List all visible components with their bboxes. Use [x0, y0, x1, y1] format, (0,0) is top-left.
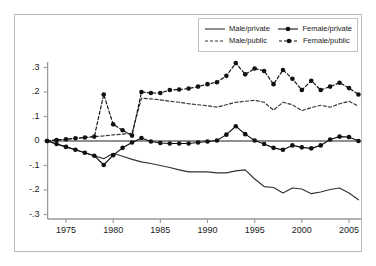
- series-marker-female-private: [120, 146, 125, 151]
- series-marker-female-private: [177, 141, 182, 146]
- legend-key-female-public: [278, 36, 300, 46]
- series-line-female-public: [47, 63, 358, 141]
- series-marker-female-public: [130, 133, 135, 138]
- series-marker-female-public: [337, 80, 342, 85]
- series-marker-female-private: [262, 142, 267, 147]
- series-marker-female-public: [328, 84, 333, 89]
- series-marker-female-private: [318, 143, 323, 148]
- series-marker-female-public: [205, 82, 210, 87]
- series-marker-female-private: [271, 146, 276, 151]
- chart-figure: Male/private Female/private Male/public: [0, 0, 376, 266]
- series-marker-female-private: [196, 140, 201, 145]
- y-axis-tick-label: .3: [14, 62, 40, 72]
- series-marker-female-public: [224, 74, 229, 79]
- series-marker-female-private: [290, 143, 295, 148]
- series-marker-female-public: [309, 78, 314, 83]
- series-marker-female-private: [356, 139, 361, 144]
- series-marker-female-public: [101, 92, 106, 97]
- series-marker-female-private: [111, 153, 116, 158]
- series-marker-female-public: [234, 61, 239, 66]
- series-marker-female-public: [196, 84, 201, 89]
- series-marker-female-private: [347, 135, 352, 140]
- series-marker-female-private: [64, 145, 69, 150]
- y-axis-tick-label: 0: [14, 135, 40, 145]
- series-marker-female-public: [139, 90, 144, 95]
- legend-key-male-private: [204, 24, 226, 34]
- series-marker-female-private: [54, 142, 59, 147]
- chart-legend: Male/private Female/private Male/public: [198, 18, 358, 52]
- legend-item-male-private: Male/private: [204, 24, 277, 34]
- y-axis-tick-label: -.3: [14, 209, 40, 219]
- series-marker-female-private: [130, 140, 135, 145]
- series-marker-female-public: [281, 68, 286, 73]
- series-marker-female-public: [215, 80, 220, 85]
- series-marker-female-public: [252, 66, 257, 71]
- series-marker-female-private: [92, 153, 97, 158]
- series-marker-female-private: [158, 141, 163, 146]
- legend-item-female-public: Female/public: [278, 36, 352, 46]
- series-marker-female-public: [290, 76, 295, 81]
- series-marker-female-private: [186, 141, 191, 146]
- series-marker-female-private: [215, 138, 220, 143]
- y-axis-tick-label: .2: [14, 86, 40, 96]
- series-marker-female-public: [177, 87, 182, 92]
- series-marker-female-private: [149, 139, 154, 144]
- series-marker-female-private: [224, 132, 229, 137]
- x-axis-tick-label: 1990: [191, 225, 225, 235]
- series-marker-female-private: [73, 148, 78, 153]
- series-marker-female-public: [167, 88, 172, 93]
- series-marker-female-private: [234, 124, 239, 129]
- x-axis-tick-label: 1980: [96, 225, 130, 235]
- legend-key-male-public: [204, 36, 226, 46]
- series-marker-female-private: [101, 163, 106, 168]
- legend-label: Female/private: [302, 24, 352, 34]
- series-marker-female-public: [186, 86, 191, 91]
- series-marker-female-public: [73, 136, 78, 141]
- x-axis-tick-label: 1975: [49, 225, 83, 235]
- legend-row: Male/private Female/private: [204, 23, 352, 35]
- x-axis-tick-label: 2005: [332, 225, 366, 235]
- series-marker-female-public: [356, 92, 361, 97]
- legend-label: Female/public: [303, 36, 350, 46]
- series-marker-female-private: [139, 136, 144, 141]
- legend-key-female-private: [277, 24, 299, 34]
- series-marker-female-public: [149, 91, 154, 96]
- series-marker-female-private: [205, 139, 210, 144]
- series-marker-female-public: [120, 128, 125, 133]
- series-marker-female-private: [328, 137, 333, 142]
- y-axis-tick-label: -.2: [14, 184, 40, 194]
- y-axis-tick-label: -.1: [14, 160, 40, 170]
- series-marker-female-private: [337, 134, 342, 139]
- series-marker-female-public: [318, 88, 323, 93]
- series-marker-female-public: [271, 82, 276, 87]
- series-marker-female-public: [243, 72, 248, 77]
- series-line-female-private: [47, 126, 358, 165]
- x-axis-tick-label: 1985: [143, 225, 177, 235]
- series-marker-female-public: [83, 135, 88, 140]
- series-marker-female-public: [45, 139, 50, 144]
- series-marker-female-private: [252, 138, 257, 143]
- series-marker-female-public: [262, 69, 267, 74]
- x-axis-tick-label: 2000: [285, 225, 319, 235]
- legend-label: Male/public: [229, 36, 267, 46]
- legend-label: Male/private: [229, 24, 270, 34]
- x-axis-tick-label: 1995: [238, 225, 272, 235]
- series-marker-female-public: [54, 138, 59, 143]
- series-marker-female-public: [92, 134, 97, 139]
- series-marker-female-private: [300, 145, 305, 150]
- legend-item-male-public: Male/public: [204, 36, 278, 46]
- y-axis-tick-label: .1: [14, 111, 40, 121]
- series-marker-female-private: [309, 146, 314, 151]
- series-marker-female-private: [167, 141, 172, 146]
- series-marker-female-public: [300, 88, 305, 93]
- legend-row: Male/public Female/public: [204, 35, 352, 47]
- legend-item-female-private: Female/private: [277, 24, 352, 34]
- series-marker-female-private: [83, 150, 88, 155]
- series-marker-female-public: [111, 122, 116, 127]
- series-marker-female-private: [281, 148, 286, 153]
- series-marker-female-public: [158, 91, 163, 96]
- series-marker-female-private: [243, 132, 248, 137]
- series-marker-female-public: [64, 137, 69, 142]
- series-marker-female-public: [347, 86, 352, 91]
